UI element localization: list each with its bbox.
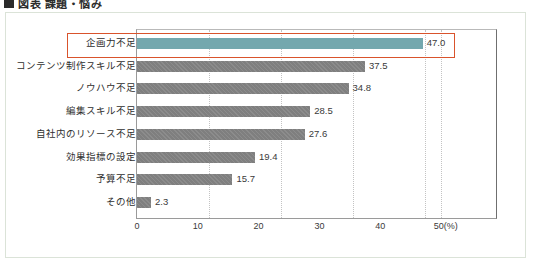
bar: [137, 174, 232, 185]
bar-category-label: ノウハウ不足: [0, 82, 136, 94]
bar-value-label: 27.6: [309, 128, 328, 140]
bar: [137, 106, 310, 117]
bar-row: 効果指標の設定19.4: [0, 147, 535, 170]
x-tick-10: 10: [193, 221, 203, 231]
chart-screenshot: 図表 課題・悩み 企画力不足47.0コンテンツ制作スキル不足37.5ノウハウ不足…: [0, 0, 535, 270]
x-tick-40: 40: [375, 221, 385, 231]
bar-category-label: 予算不足: [0, 173, 136, 185]
page-title: 図表 課題・悩み: [18, 0, 102, 9]
bar-row: 予算不足15.7: [0, 169, 535, 192]
bar-category-label: 編集スキル不足: [0, 105, 136, 117]
bar-value-label: 34.8: [353, 82, 372, 94]
bar-row: ノウハウ不足34.8: [0, 78, 535, 101]
chart-title-strip: 図表 課題・悩み: [0, 0, 535, 9]
bar: [137, 197, 151, 208]
bar-category-label: コンテンツ制作スキル不足: [0, 60, 136, 72]
bar-value-label: 2.3: [155, 196, 168, 208]
x-tick-30: 30: [314, 221, 324, 231]
x-tick-50: 50(%): [434, 221, 458, 231]
bar-row: 自社内のリソース不足27.6: [0, 124, 535, 147]
bar-category-label: 効果指標の設定: [0, 151, 136, 163]
bar-row: その他2.3: [0, 192, 535, 215]
bar-value-label: 47.0: [427, 37, 446, 49]
x-tick-0: 0: [134, 221, 139, 231]
x-axis-ticks: 01020304050(%): [0, 221, 535, 237]
bar-category-label: 自社内のリソース不足: [0, 128, 136, 140]
bar-row: コンテンツ制作スキル不足37.5: [0, 56, 535, 79]
bar-highlighted: [137, 38, 423, 49]
bar: [137, 152, 255, 163]
x-tick-20: 20: [254, 221, 264, 231]
bar: [137, 129, 305, 140]
bar: [137, 61, 365, 72]
bar-category-label: 企画力不足: [0, 37, 136, 49]
bar-row: 企画力不足47.0: [0, 33, 535, 56]
x-axis-unit-label: (%): [444, 221, 458, 231]
bar-value-label: 37.5: [369, 60, 388, 72]
x-tick-value: 50: [434, 221, 444, 231]
bar-row: 編集スキル不足28.5: [0, 101, 535, 124]
bar-value-label: 15.7: [236, 173, 255, 185]
bar-value-label: 28.5: [314, 105, 333, 117]
bar-category-label: その他: [0, 196, 136, 208]
bar-value-label: 19.4: [259, 151, 278, 163]
bar: [137, 83, 349, 94]
square-bullet-icon: [4, 0, 14, 8]
